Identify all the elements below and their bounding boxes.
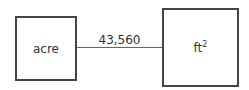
exponent: 2 [202,40,207,49]
unit-text: ft [194,41,203,55]
conversion-edge [77,47,162,48]
square-feet-node: ft2 [162,8,239,87]
conversion-factor-label: 43,560 [77,33,162,47]
square-feet-label: ft2 [194,40,208,55]
acre-label: acre [33,42,59,56]
acre-node: acre [15,16,77,81]
